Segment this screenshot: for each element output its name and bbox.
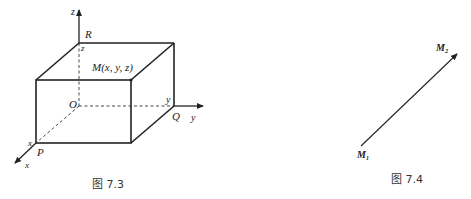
label-point-m: M(x, y, z)	[91, 61, 133, 74]
label-origin: O	[69, 98, 77, 110]
diagram-canvas: z R z M(x, y, z) O y Q y x P x 图 7.3 M2 …	[0, 0, 471, 199]
point-m	[129, 78, 132, 81]
label-r: R	[84, 28, 92, 40]
caption-fig-7-4: 图 7.4	[391, 173, 423, 186]
label-z-axis: z	[70, 6, 75, 17]
vector-m1-m2-arrow	[361, 54, 457, 146]
caption-fig-7-3: 图 7.3	[92, 178, 124, 191]
label-y-axis: y	[190, 112, 196, 123]
label-x-axis: x	[24, 160, 29, 170]
label-p: P	[36, 146, 44, 158]
label-z-coord: z	[80, 43, 85, 53]
label-y-coord: y	[165, 94, 171, 105]
label-m2: M2	[435, 42, 448, 54]
label-q: Q	[172, 110, 180, 122]
hidden-edge-x	[36, 106, 79, 143]
box-edges	[36, 43, 174, 143]
label-m1: M1	[356, 149, 369, 161]
figure-7-4: M2 M1 图 7.4	[356, 42, 457, 186]
label-x-coord: x	[27, 138, 32, 148]
figure-7-3: z R z M(x, y, z) O y Q y x P x 图 7.3	[15, 6, 203, 191]
